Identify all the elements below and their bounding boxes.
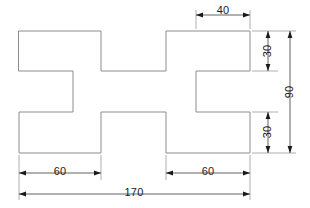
arrowhead-40-right: [243, 13, 250, 18]
arrowhead-170-right: [243, 192, 250, 197]
technical-drawing-canvas: 40 30 30 90 60: [0, 0, 310, 208]
dim-label-60-left: 60: [54, 165, 67, 177]
dim-label-90: 90: [283, 86, 295, 99]
arrowhead-60-right-end: [243, 171, 250, 176]
arrowhead-90-bottom: [288, 146, 293, 153]
arrowhead-90-top: [288, 31, 293, 38]
dim-60-left: 60: [19, 165, 101, 177]
dim-30-lower: 30: [261, 112, 273, 153]
arrowhead-30-lower-bottom: [266, 146, 271, 153]
arrowhead-30-upper-top: [266, 31, 271, 38]
arrowhead-60-left-start: [19, 171, 26, 176]
dim-170-overall: 170: [19, 186, 250, 198]
dim-label-60-right: 60: [202, 165, 215, 177]
arrowhead-60-left-end: [94, 171, 101, 176]
arrowhead-40-left: [196, 13, 203, 18]
dim-label-30-upper: 30: [261, 45, 273, 58]
dim-40-top: 40: [196, 4, 250, 17]
dim-60-right: 60: [166, 165, 250, 177]
dim-label-170: 170: [125, 186, 144, 198]
arrowhead-30-lower-top: [266, 112, 271, 119]
arrowhead-170-left: [19, 192, 26, 197]
arrowhead-30-upper-bottom: [266, 64, 271, 71]
arrowhead-60-right-start: [166, 171, 173, 176]
dim-label-40: 40: [217, 4, 230, 16]
cad-drawing-svg: 40 30 30 90 60: [0, 0, 310, 208]
dim-30-upper: 30: [261, 31, 273, 71]
part-outline-path: [19, 31, 250, 153]
dim-90-overall: 90: [283, 31, 295, 153]
dim-label-30-lower: 30: [261, 126, 273, 139]
